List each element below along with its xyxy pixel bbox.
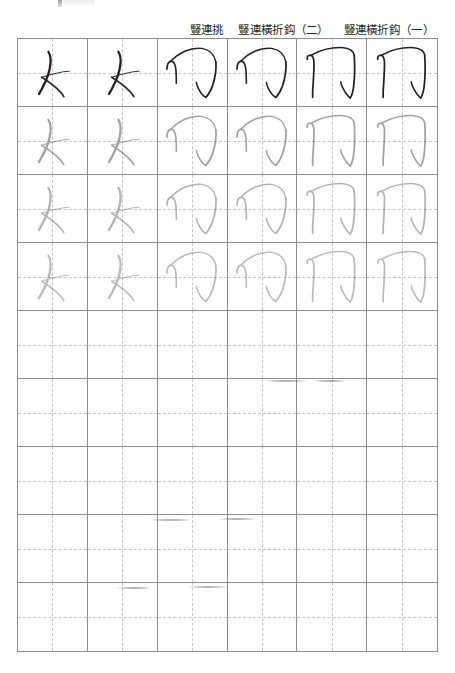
stroke-glyph-shu-lian-heng-zhe-gou-2 <box>158 243 227 310</box>
stroke-glyph-shu-lian-heng-zhe-gou-1 <box>367 107 437 174</box>
grid-cell[interactable] <box>158 379 228 447</box>
header-cell-0 <box>17 19 122 37</box>
grid-cell[interactable] <box>18 583 88 651</box>
grid-cell[interactable] <box>158 175 228 243</box>
grid-cell[interactable] <box>18 107 88 175</box>
stroke-glyph-shu-lian-heng-zhe-gou-1 <box>367 175 437 242</box>
grid-cell[interactable] <box>158 107 228 175</box>
practice-grid <box>17 38 438 652</box>
header-cell-shu-lian-heng-zhe-gou-2: 豎連橫折鈎（二） <box>228 19 333 37</box>
stroke-glyph-shu-lian-heng-zhe-gou-1 <box>367 39 437 106</box>
stroke-glyph-shu-lian-tiao <box>18 107 87 174</box>
grid-cell[interactable] <box>18 39 88 107</box>
stroke-glyph-shu-lian-heng-zhe-gou-2 <box>228 175 297 242</box>
grid-cell[interactable] <box>158 39 228 107</box>
grid-cell[interactable] <box>228 107 298 175</box>
grid-cell[interactable] <box>18 515 88 583</box>
grid-cell[interactable] <box>18 379 88 447</box>
grid-cell[interactable] <box>228 583 298 651</box>
stroke-glyph-shu-lian-heng-zhe-gou-2 <box>228 243 297 310</box>
stroke-name-header-row: 豎連挑 豎連橫折鈎（二） 豎連橫折鈎（一） <box>17 19 438 37</box>
grid-cell[interactable] <box>228 379 298 447</box>
grid-cell[interactable] <box>88 379 158 447</box>
header-cell-shu-lian-heng-zhe-gou-1: 豎連橫折鈎（一） <box>333 19 438 37</box>
grid-cell[interactable] <box>367 175 437 243</box>
header-cell-shu-lian-tiao: 豎連挑 <box>122 19 227 37</box>
stroke-glyph-shu-lian-tiao <box>18 39 87 106</box>
stroke-glyph-shu-lian-tiao <box>88 107 157 174</box>
grid-cell[interactable] <box>88 515 158 583</box>
stroke-glyph-shu-lian-heng-zhe-gou-2 <box>158 107 227 174</box>
grid-cell[interactable] <box>297 583 367 651</box>
grid-cell[interactable] <box>367 107 437 175</box>
grid-cell[interactable] <box>228 311 298 379</box>
grid-cell[interactable] <box>88 107 158 175</box>
grid-cell[interactable] <box>367 583 437 651</box>
grid-cell[interactable] <box>228 447 298 515</box>
grid-cell[interactable] <box>297 311 367 379</box>
header-label-shu-lian-heng-zhe-gou-1: 豎連橫折鈎（一） <box>344 23 434 37</box>
grid-cell[interactable] <box>297 175 367 243</box>
stroke-glyph-shu-lian-heng-zhe-gou-2 <box>228 39 297 106</box>
grid-cell[interactable] <box>88 39 158 107</box>
header-label-shu-lian-tiao: 豎連挑 <box>190 23 224 37</box>
grid-cell[interactable] <box>367 379 437 447</box>
grid-cell[interactable] <box>158 447 228 515</box>
stroke-glyph-shu-lian-heng-zhe-gou-2 <box>158 175 227 242</box>
grid-cell[interactable] <box>367 311 437 379</box>
stroke-glyph-shu-lian-heng-zhe-gou-1 <box>297 39 366 106</box>
grid-cell[interactable] <box>297 107 367 175</box>
grid-cell[interactable] <box>88 583 158 651</box>
stroke-glyph-shu-lian-heng-zhe-gou-1 <box>297 107 366 174</box>
header-label-shu-lian-heng-zhe-gou-2: 豎連橫折鈎（二） <box>238 23 328 37</box>
stroke-glyph-shu-lian-tiao <box>88 243 157 310</box>
grid-cell[interactable] <box>88 175 158 243</box>
stroke-glyph-shu-lian-tiao <box>88 175 157 242</box>
grid-cell[interactable] <box>158 311 228 379</box>
grid-cell[interactable] <box>88 243 158 311</box>
grid-cell[interactable] <box>88 311 158 379</box>
grid-cell[interactable] <box>158 243 228 311</box>
grid-cell[interactable] <box>228 175 298 243</box>
grid-cell[interactable] <box>367 39 437 107</box>
page-top-artifact-mark <box>58 0 62 7</box>
stroke-glyph-shu-lian-heng-zhe-gou-2 <box>158 39 227 106</box>
stroke-glyph-shu-lian-tiao <box>88 39 157 106</box>
grid-cell[interactable] <box>367 515 437 583</box>
grid-cell[interactable] <box>367 243 437 311</box>
grid-cell[interactable] <box>18 175 88 243</box>
grid-cell[interactable] <box>297 515 367 583</box>
grid-cell[interactable] <box>158 583 228 651</box>
stroke-glyph-shu-lian-heng-zhe-gou-1 <box>367 243 437 310</box>
stroke-glyph-shu-lian-tiao <box>18 175 87 242</box>
grid-cell[interactable] <box>367 447 437 515</box>
grid-cell[interactable] <box>18 311 88 379</box>
grid-cell[interactable] <box>228 515 298 583</box>
grid-cell[interactable] <box>158 515 228 583</box>
grid-cell[interactable] <box>297 447 367 515</box>
grid-cell[interactable] <box>88 447 158 515</box>
grid-cell[interactable] <box>297 243 367 311</box>
stroke-glyph-shu-lian-heng-zhe-gou-1 <box>297 175 366 242</box>
stroke-glyph-shu-lian-heng-zhe-gou-1 <box>297 243 366 310</box>
grid-cell[interactable] <box>228 39 298 107</box>
page-top-artifact-smear <box>63 0 95 5</box>
grid-cell[interactable] <box>297 379 367 447</box>
grid-cell[interactable] <box>18 243 88 311</box>
grid-cell[interactable] <box>228 243 298 311</box>
worksheet-page: 豎連挑 豎連橫折鈎（二） 豎連橫折鈎（一） <box>0 0 455 673</box>
grid-cell[interactable] <box>297 39 367 107</box>
stroke-glyph-shu-lian-heng-zhe-gou-2 <box>228 107 297 174</box>
stroke-glyph-shu-lian-tiao <box>18 243 87 310</box>
grid-cell[interactable] <box>18 447 88 515</box>
